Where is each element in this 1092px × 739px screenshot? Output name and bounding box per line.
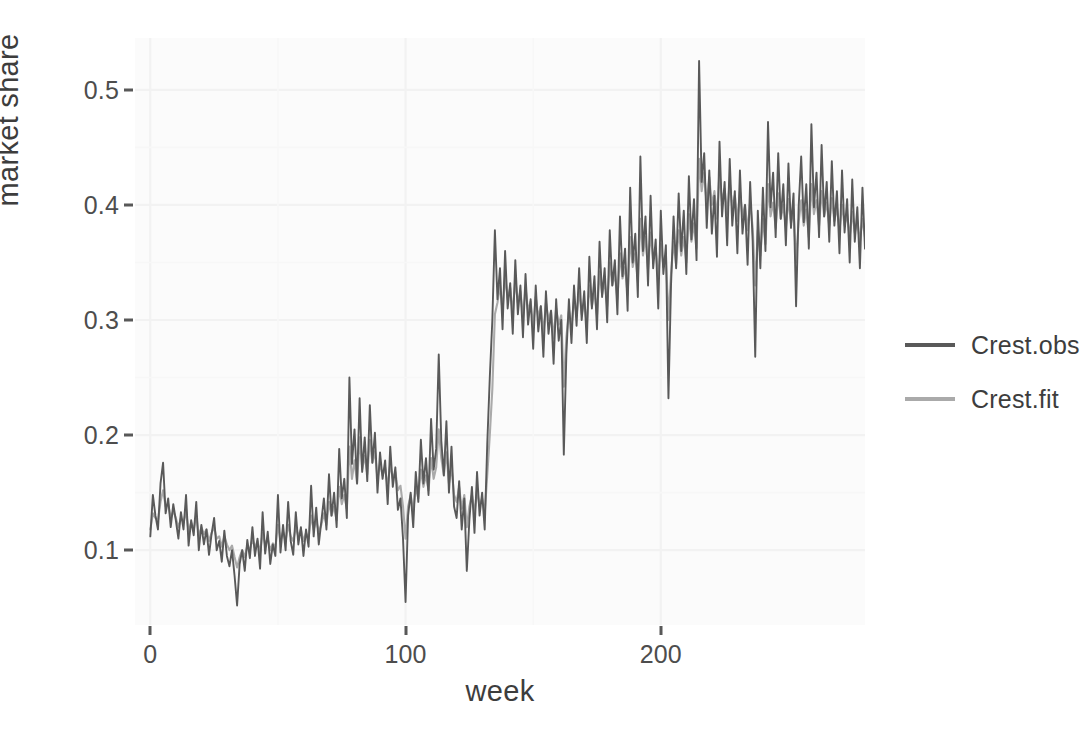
y-tick-label: 0.3	[0, 305, 119, 334]
legend-line-icon	[905, 343, 955, 347]
plot-area	[135, 38, 865, 625]
legend: Crest.obsCrest.fit	[905, 318, 1085, 426]
legend-label: Crest.fit	[971, 385, 1059, 414]
y-tick-label: 0.2	[0, 421, 119, 450]
x-axis-title: week	[135, 675, 865, 708]
chart-root: 0.10.20.30.40.5 market share 0100200 wee…	[0, 0, 1092, 739]
y-tick-mark	[124, 549, 133, 552]
y-tick-mark	[124, 88, 133, 91]
y-tick-mark	[124, 434, 133, 437]
legend-item[interactable]: Crest.fit	[905, 372, 1085, 426]
x-tick-mark	[149, 626, 152, 635]
legend-item[interactable]: Crest.obs	[905, 318, 1085, 372]
x-tick-label: 100	[384, 640, 426, 669]
legend-label: Crest.obs	[971, 331, 1080, 360]
x-tick-label: 200	[640, 640, 682, 669]
y-tick-label: 0.1	[0, 536, 119, 565]
x-tick-mark	[404, 626, 407, 635]
x-tick-mark	[659, 626, 662, 635]
plot-panel	[135, 38, 865, 625]
y-tick-mark	[124, 203, 133, 206]
y-axis-title: market share	[0, 0, 25, 270]
y-tick-mark	[124, 318, 133, 321]
x-tick-label: 0	[143, 640, 157, 669]
legend-line-icon	[905, 397, 955, 401]
series-line-crest-obs	[150, 61, 865, 605]
